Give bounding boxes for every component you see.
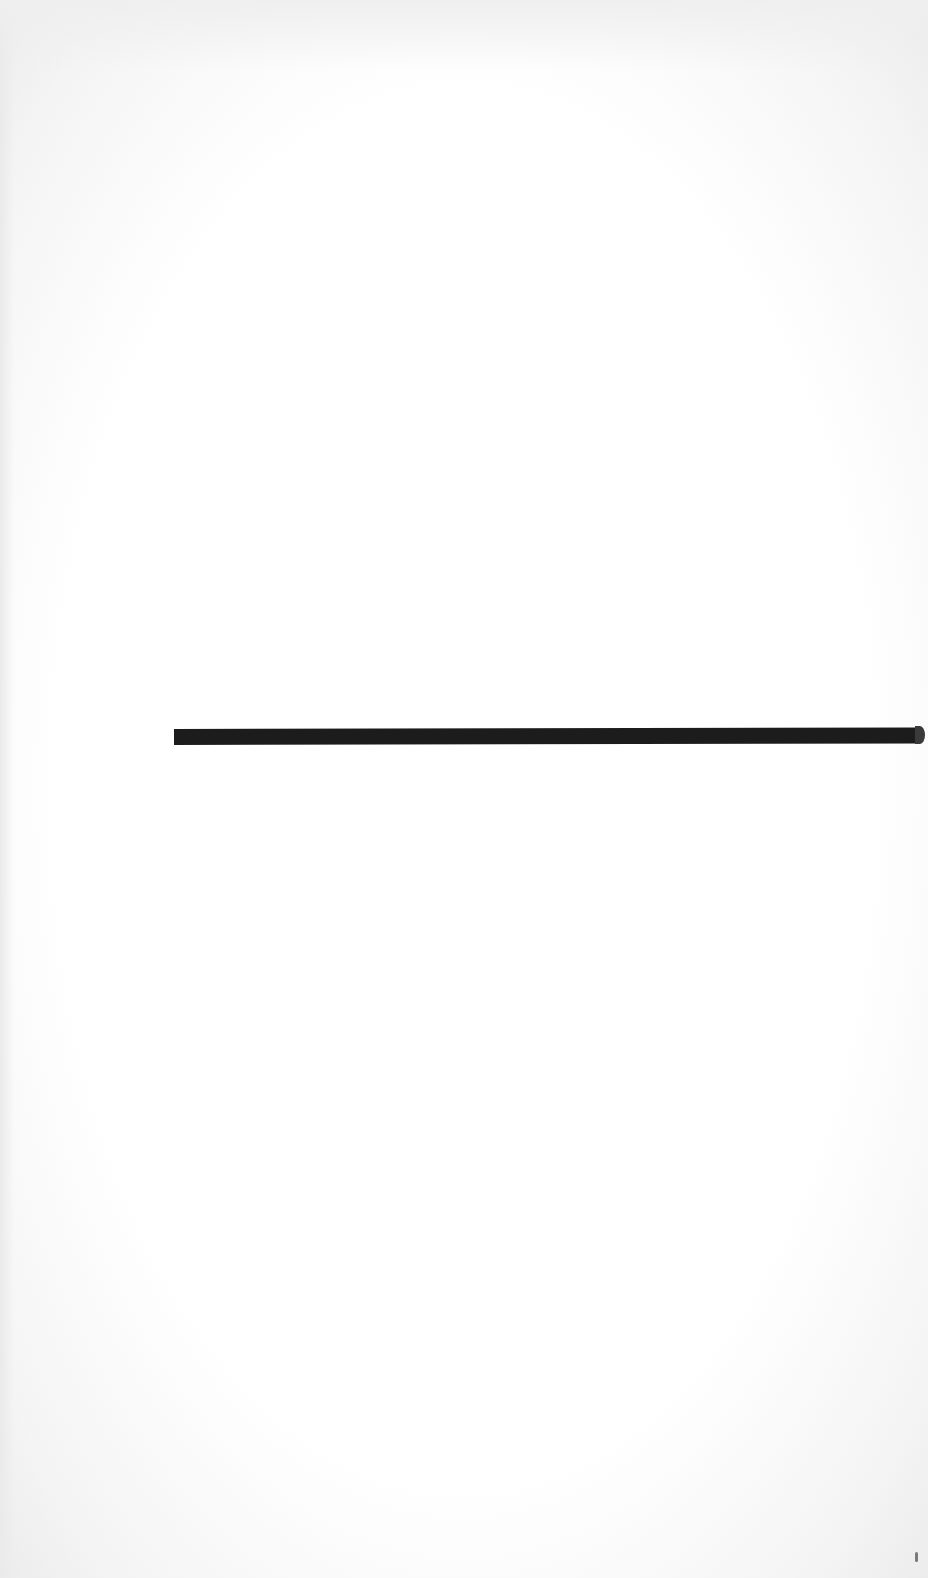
scanned-page (0, 0, 928, 1578)
horizontal-rule-end (915, 726, 925, 744)
page-edge-shadow (0, 0, 14, 1578)
page-edge-shadow-top (0, 0, 928, 70)
horizontal-rule (174, 727, 920, 745)
scan-mark (915, 1552, 918, 1562)
